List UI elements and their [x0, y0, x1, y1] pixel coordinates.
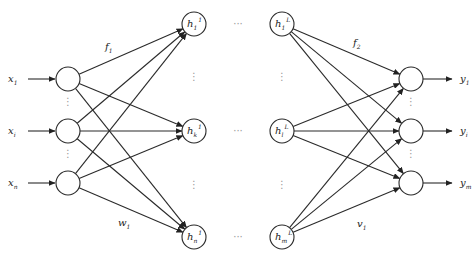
layer-hdots-2: ···	[233, 231, 243, 242]
weight-edge-w	[79, 84, 183, 127]
output-node-0	[399, 67, 423, 91]
input-vdots-0: ⋮	[63, 96, 73, 107]
output-node-1	[399, 119, 423, 143]
input-label-2: xn	[8, 177, 18, 190]
weight-edge-v	[293, 83, 400, 126]
hidden1-vdots-1: ⋮	[189, 179, 199, 190]
neural-network-diagram: x1xixny1yiymh11hk1hn1h1LhlLhmL⋮⋮⋮⋮⋮⋮⋮⋮··…	[0, 0, 476, 266]
weight-edge-v	[293, 188, 400, 233]
weight-edge-w	[77, 139, 185, 230]
edge-label-v1: v1	[357, 218, 366, 231]
weight-edge-w	[79, 188, 183, 233]
layer-hdots-0: ···	[233, 18, 243, 29]
output-label-2: ym	[459, 177, 472, 190]
weight-edge-v	[293, 135, 400, 178]
hiddenL-vdots-1: ⋮	[277, 179, 287, 190]
weight-edge-v	[290, 33, 404, 173]
weight-edge-w	[75, 88, 186, 227]
edge-label-w1: w1	[118, 217, 130, 230]
weight-edge-v	[290, 88, 404, 227]
hiddenL-vdots-0: ⋮	[277, 71, 287, 82]
input-node-1	[56, 119, 80, 143]
layer-hdots-1: ···	[233, 125, 243, 136]
weight-edge-v	[293, 29, 400, 75]
output-label-0: y1	[459, 73, 469, 86]
input-node-2	[56, 171, 80, 195]
hidden1-vdots-0: ⋮	[189, 71, 199, 82]
output-vdots-1: ⋮	[406, 148, 416, 159]
weight-edge-w	[75, 33, 186, 173]
input-label-1: xi	[8, 125, 16, 138]
edge-label-f2: f2	[352, 37, 361, 50]
input-vdots-1: ⋮	[63, 148, 73, 159]
output-node-2	[399, 171, 423, 195]
output-label-1: yi	[459, 125, 468, 138]
weight-edge-w	[77, 32, 185, 123]
input-node-0	[56, 67, 80, 91]
input-label-0: x1	[8, 73, 17, 86]
edge-label-f1: f1	[104, 41, 113, 54]
output-vdots-0: ⋮	[406, 96, 416, 107]
weight-edge-v	[291, 139, 401, 230]
weight-edge-v	[291, 32, 402, 124]
weight-edge-w	[79, 136, 183, 179]
weight-edge-w	[79, 29, 183, 74]
network-svg: x1xixny1yiymh11hk1hn1h1LhlLhmL⋮⋮⋮⋮⋮⋮⋮⋮··…	[0, 0, 476, 266]
